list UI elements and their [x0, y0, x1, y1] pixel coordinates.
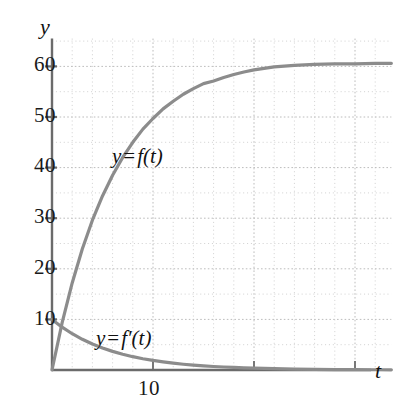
series-line-0: [52, 63, 391, 370]
axes-layer: [45, 39, 371, 371]
x-tick-label-10: 10: [138, 376, 160, 401]
y-tick-label-10: 10: [34, 306, 56, 331]
curve-label-f-y: y: [112, 144, 121, 168]
curve-label-fprime-eq: =: [105, 326, 121, 350]
y-tick-label-60: 60: [34, 52, 56, 77]
curve-label-fprime-y: y: [96, 326, 105, 350]
curve-label-f: y=f(t): [112, 144, 163, 169]
y-tick-label-30: 30: [34, 204, 56, 229]
series-layer: [52, 63, 391, 370]
grid-layer: [52, 39, 391, 370]
curve-label-f-prime: y=f′(t): [96, 326, 151, 351]
curve-label-f-eq: =: [121, 144, 137, 168]
figure-container: 60 50 40 30 20 10 10 y t y=f(t) y=f′(t): [0, 0, 394, 415]
y-tick-label-20: 20: [34, 255, 56, 280]
y-tick-label-40: 40: [34, 153, 56, 178]
x-axis-label: t: [375, 358, 381, 384]
curve-label-f-fn: f(t): [137, 144, 163, 168]
y-tick-label-50: 50: [34, 103, 56, 128]
curve-label-fprime-fn: f′(t): [121, 326, 151, 350]
y-axis-label: y: [40, 14, 50, 40]
chart-plot-area: [0, 0, 394, 415]
